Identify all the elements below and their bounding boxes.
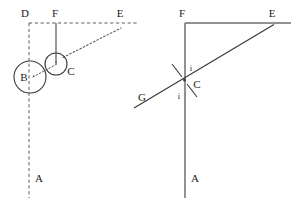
geometry-figure: D F E B C A F E C G i i A (0, 0, 305, 208)
intersection-point-c (183, 79, 186, 82)
label-c-left: C (67, 65, 74, 77)
ray-line-ge (134, 25, 274, 109)
label-e-right: E (269, 7, 276, 19)
label-d: D (21, 7, 29, 19)
label-f-right: F (179, 7, 185, 19)
center-dot-c (55, 61, 56, 62)
label-g: G (138, 91, 146, 103)
angle-cross-mark-upper (172, 64, 182, 77)
circle-b (14, 61, 46, 93)
label-c-right: C (193, 78, 200, 90)
label-e-left: E (117, 7, 124, 19)
center-dot-b (33, 75, 34, 76)
dotted-ray-line-ce (63, 28, 121, 58)
right-incidence-panel (134, 23, 291, 198)
label-angle-i-upper: i (190, 63, 193, 73)
label-angle-i-lower: i (178, 91, 181, 101)
figure-canvas: D F E B C A F E C G i i A (0, 0, 305, 208)
left-construction-panel (14, 23, 138, 198)
label-b: B (20, 71, 27, 83)
label-a-right: A (191, 172, 199, 184)
label-a-left: A (35, 172, 43, 184)
label-f-left: F (52, 7, 58, 19)
